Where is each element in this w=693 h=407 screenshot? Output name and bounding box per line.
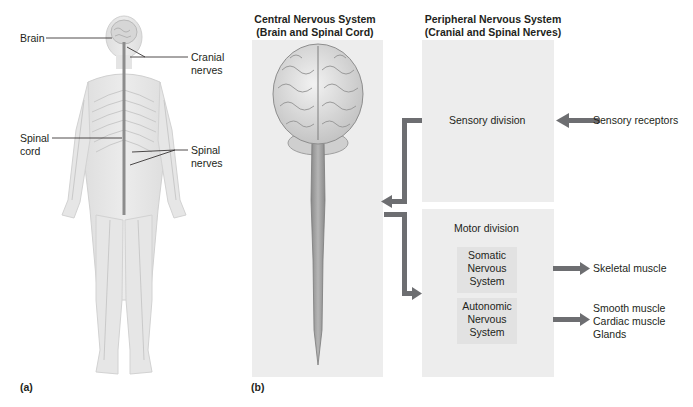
somatic-nervous-system-box: Somatic Nervous System: [457, 247, 517, 293]
somatic-line2: Nervous: [457, 262, 517, 275]
autonomic-line2: Nervous: [457, 313, 517, 326]
cns-arrows-illustration: [0, 0, 693, 407]
figure-letter-b: (b): [251, 381, 264, 393]
autonomic-targets-list: Smooth muscle Cardiac muscle Glands: [593, 302, 665, 341]
somatic-line1: Somatic: [457, 249, 517, 262]
sensory-receptors-label: Sensory receptors: [593, 114, 678, 127]
autonomic-line3: System: [457, 326, 517, 339]
target-cardiac-muscle: Cardiac muscle: [593, 315, 665, 328]
motor-division-label: Motor division: [454, 222, 519, 235]
somatic-line3: System: [457, 275, 517, 288]
sensory-division-label: Sensory division: [449, 114, 525, 127]
autonomic-line1: Autonomic: [457, 300, 517, 313]
target-smooth-muscle: Smooth muscle: [593, 302, 665, 315]
spinal-cord-b: [311, 140, 325, 365]
skeletal-muscle-label: Skeletal muscle: [593, 262, 667, 275]
autonomic-nervous-system-box: Autonomic Nervous System: [457, 298, 517, 344]
target-glands: Glands: [593, 328, 665, 341]
